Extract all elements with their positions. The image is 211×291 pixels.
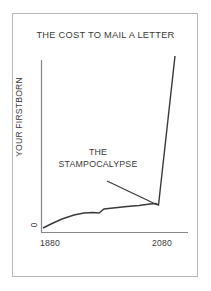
y-axis-origin-tick-label: 0 xyxy=(29,218,39,232)
comic-panel-page: THE COST TO MAIL A LETTER YOUR FIRSTBORN… xyxy=(0,0,211,291)
cost-to-mail-a-letter-chart xyxy=(0,0,211,291)
annotation-line-two: STAMPOCALYPSE xyxy=(48,159,148,171)
chart-title: THE COST TO MAIL A LETTER xyxy=(0,30,211,40)
annotation-leader-line xyxy=(107,181,158,205)
x-axis-tick-label-end: 2080 xyxy=(152,238,172,248)
y-axis-label: YOUR FIRSTBORN xyxy=(14,67,24,167)
cost-data-line xyxy=(43,56,175,228)
stampocalypse-annotation: THE STAMPOCALYPSE xyxy=(48,147,148,170)
x-axis-tick-label-start: 1880 xyxy=(40,238,60,248)
annotation-line-one: THE xyxy=(48,147,148,159)
